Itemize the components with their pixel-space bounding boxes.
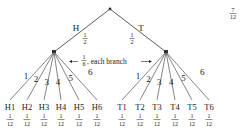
sub-branch-labels: 123456123456 bbox=[24, 67, 205, 87]
right-arrowhead-icon bbox=[149, 60, 152, 63]
leaf-label-t2: T2 bbox=[135, 102, 144, 112]
leaf-prob-den: 12 bbox=[7, 121, 13, 127]
left-arrowhead-icon bbox=[69, 60, 72, 63]
leaf-prob-den: 12 bbox=[41, 121, 47, 127]
leaf-prob-num: 1 bbox=[208, 113, 211, 119]
leaf-prob-den: 12 bbox=[206, 121, 212, 127]
leaf-label-h2: H2 bbox=[22, 102, 32, 112]
each-branch-annotation: 1 6 , each branch bbox=[69, 54, 152, 67]
leaf-prob-den: 12 bbox=[58, 121, 64, 127]
prob-h-num: 1 bbox=[84, 32, 87, 38]
branch-number-label: 1 bbox=[24, 71, 29, 81]
leaf-label-t3: T3 bbox=[152, 102, 161, 112]
leaf-outcomes: H1112H2112H3112H4112H5112H6112T1112T2112… bbox=[5, 102, 214, 127]
leaf-prob-den: 12 bbox=[172, 121, 178, 127]
leaf-label-t6: T6 bbox=[204, 102, 213, 112]
leaf-label-h1: H1 bbox=[5, 102, 15, 112]
leaf-label-t4: T4 bbox=[170, 102, 180, 112]
branch-number-label: 6 bbox=[88, 67, 93, 77]
branch-number-label: 4 bbox=[169, 77, 174, 87]
annotation-den: 6 bbox=[83, 61, 86, 67]
leaf-prob-num: 1 bbox=[156, 113, 159, 119]
leaf-prob-num: 1 bbox=[26, 113, 29, 119]
leaf-prob-den: 12 bbox=[137, 121, 143, 127]
leaf-prob-num: 1 bbox=[9, 113, 12, 119]
branch-number-label: 3 bbox=[157, 77, 162, 87]
leaf-prob-num: 1 bbox=[191, 113, 194, 119]
prob-t-den: 2 bbox=[131, 39, 134, 45]
leaf-prob-num: 1 bbox=[139, 113, 142, 119]
leaf-label-h6: H6 bbox=[92, 102, 102, 112]
leaf-prob-num: 1 bbox=[43, 113, 46, 119]
leaf-prob-den: 12 bbox=[76, 121, 82, 127]
edge-h2 bbox=[27, 52, 54, 100]
annotation-text: , each branch bbox=[87, 57, 127, 66]
leaf-label-t5: T5 bbox=[187, 102, 196, 112]
branch-number-label: 5 bbox=[69, 73, 74, 83]
tree-nodes bbox=[52, 8, 168, 53]
leaf-prob-den: 12 bbox=[94, 121, 100, 127]
leaf-prob-den: 12 bbox=[189, 121, 195, 127]
probability-tree-diagram: H 1 2 T 1 2 7 12 1 6 , each branch 12345… bbox=[0, 0, 242, 133]
leaf-prob-num: 1 bbox=[60, 113, 63, 119]
branch-number-label: 2 bbox=[34, 74, 39, 84]
tree-edges bbox=[10, 9, 209, 100]
leaf-prob-num: 1 bbox=[78, 113, 81, 119]
leaf-label-h4: H4 bbox=[56, 102, 67, 112]
node-h bbox=[52, 50, 56, 53]
corner-fraction-num: 7 bbox=[232, 7, 235, 13]
branch-number-label: 3 bbox=[44, 77, 49, 87]
leaf-prob-num: 1 bbox=[121, 113, 124, 119]
branch-number-label: 1 bbox=[136, 71, 141, 81]
edge-root-h bbox=[54, 9, 110, 52]
prob-t-num: 1 bbox=[131, 32, 134, 38]
prob-h-den: 2 bbox=[84, 39, 87, 45]
leaf-label-h5: H5 bbox=[74, 102, 84, 112]
branch-label-t: T bbox=[138, 23, 144, 33]
branch-number-label: 5 bbox=[181, 73, 186, 83]
annotation-num: 1 bbox=[83, 54, 86, 60]
leaf-prob-num: 1 bbox=[96, 113, 99, 119]
leaf-prob-den: 12 bbox=[24, 121, 30, 127]
leaf-label-h3: H3 bbox=[39, 102, 49, 112]
branch-number-label: 4 bbox=[56, 77, 61, 87]
leaf-label-t1: T1 bbox=[117, 102, 126, 112]
leaf-prob-den: 12 bbox=[119, 121, 125, 127]
branch-number-label: 6 bbox=[200, 67, 205, 77]
node-t bbox=[164, 50, 168, 53]
branch-label-h: H bbox=[73, 23, 80, 33]
corner-fraction-den: 12 bbox=[230, 14, 236, 20]
root-node bbox=[109, 8, 112, 11]
leaf-prob-den: 12 bbox=[154, 121, 160, 127]
branch-number-label: 2 bbox=[146, 74, 151, 84]
leaf-prob-num: 1 bbox=[174, 113, 177, 119]
